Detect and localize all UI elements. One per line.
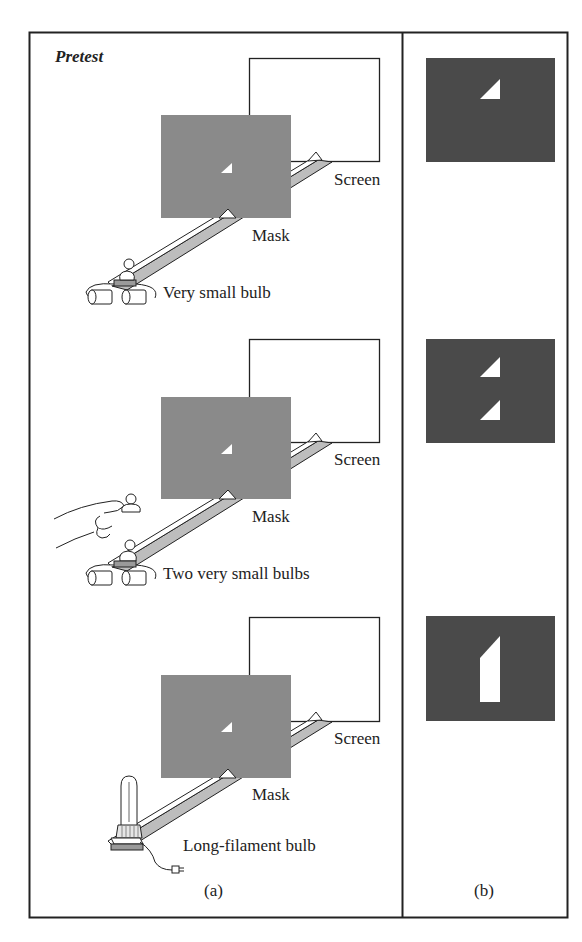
- caption-b: (b): [474, 881, 494, 900]
- screen-image: [426, 58, 555, 162]
- panel-a1: Screen Mask Very small bulb: [86, 59, 381, 305]
- screen-label: Screen: [334, 170, 381, 189]
- panel-b3: [426, 616, 555, 721]
- mask-label: Mask: [252, 507, 290, 526]
- mask-label: Mask: [252, 785, 290, 804]
- outer-frame: [30, 33, 568, 918]
- panel-a3: Screen Mask Long-filament bulb: [108, 618, 381, 874]
- mask-label: Mask: [252, 226, 290, 245]
- figure-canvas: Pretest Screen Mask Very small bulb: [0, 0, 582, 942]
- mask-rect: [161, 115, 291, 218]
- source-label: Long-filament bulb: [183, 836, 316, 855]
- panel-b1: [426, 58, 555, 162]
- panel-a2: Screen Mask Two very small bulbs: [54, 340, 381, 586]
- hand-held-bulb-icon: [54, 494, 156, 585]
- mask-rect: [161, 675, 291, 778]
- source-label: Two very small bulbs: [163, 564, 310, 583]
- source-label: Very small bulb: [163, 283, 271, 302]
- screen-label: Screen: [334, 450, 381, 469]
- figure-title: Pretest: [54, 47, 104, 66]
- screen-label: Screen: [334, 729, 381, 748]
- panel-b2: [426, 339, 555, 443]
- caption-a: (a): [204, 881, 223, 900]
- screen-image: [426, 339, 555, 443]
- mask-rect: [161, 397, 291, 499]
